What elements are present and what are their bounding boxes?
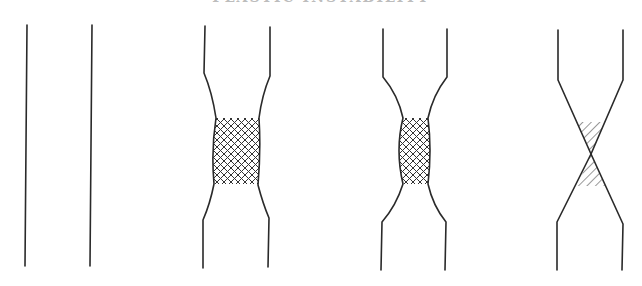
right-edge [90, 25, 92, 266]
necking-diagram [0, 0, 642, 286]
panel-fracture [557, 30, 623, 270]
left-edge [25, 25, 27, 266]
right-edge [428, 29, 447, 270]
panel-diffuse-neck [203, 26, 270, 268]
panel-local-neck [381, 29, 447, 270]
right-edge [258, 27, 270, 267]
left-edge [381, 29, 403, 270]
panel-uniform [25, 25, 92, 266]
hatch-lower [575, 154, 609, 190]
